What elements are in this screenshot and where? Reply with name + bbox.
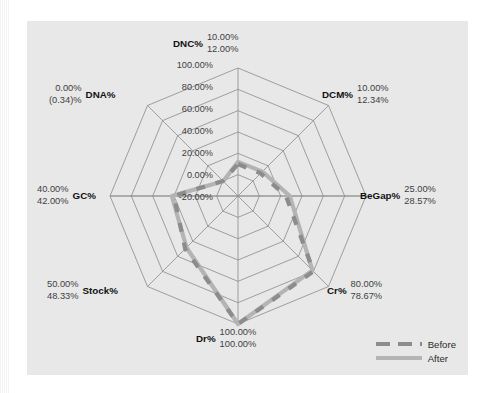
axis-name-dr: Dr% xyxy=(196,333,216,345)
axis-name-gc: GC% xyxy=(73,190,96,202)
legend-row-after: After xyxy=(376,351,456,365)
axis-value-before-stock: 50.00% xyxy=(47,279,79,291)
axis-value-after-dnc: 12.00% xyxy=(207,44,239,56)
grid-spoke xyxy=(238,196,329,287)
radar-chart-plot-area: 100.00% 80.00% 60.00% 40.00% 20.00% 0.00… xyxy=(27,21,468,375)
legend-swatch-before xyxy=(376,342,422,346)
legend-label-after: After xyxy=(428,353,448,364)
axis-name-dcm: DCM% xyxy=(322,89,353,101)
axis-label-dnc: DNC% 10.00% 12.00% xyxy=(173,32,238,55)
axis-value-before-cr: 80.00% xyxy=(351,279,383,291)
grid-spoke xyxy=(147,196,238,287)
axis-label-stock: 50.00% 48.33% Stock% xyxy=(47,279,118,302)
axis-label-cr: Cr% 80.00% 78.67% xyxy=(327,279,382,302)
axis-value-after-gc: 42.00% xyxy=(37,196,69,208)
chart-legend: Before After xyxy=(376,337,456,365)
axis-value-after-cr: 78.67% xyxy=(351,291,383,303)
tick-label-0: 0.00% xyxy=(153,170,213,180)
scan-edge-artifact xyxy=(0,0,9,393)
axis-name-dna: DNA% xyxy=(86,89,116,101)
axis-name-dnc: DNC% xyxy=(173,38,203,50)
axis-value-before-dr: 100.00% xyxy=(220,327,257,339)
axis-value-after-stock: 48.33% xyxy=(47,291,79,303)
axis-label-dr: Dr% 100.00% 100.00% xyxy=(196,327,256,350)
axis-name-begap: BeGap% xyxy=(360,190,400,202)
axis-value-after-dna: (0.34)% xyxy=(49,95,82,107)
grid-spoke xyxy=(238,105,329,196)
tick-label-60: 60.00% xyxy=(153,104,213,114)
tick-label-20: 20.00% xyxy=(153,148,213,158)
tick-label-100: 100.00% xyxy=(147,60,213,70)
axis-value-after-begap: 28.57% xyxy=(404,196,436,208)
axis-value-after-dcm: 12.34% xyxy=(357,95,389,107)
legend-swatch-after xyxy=(376,356,422,360)
tick-label-80: 80.00% xyxy=(153,82,213,92)
axis-value-before-gc: 40.00% xyxy=(37,184,69,196)
axis-value-after-dr: 100.00% xyxy=(220,339,257,351)
axis-name-stock: Stock% xyxy=(83,285,118,297)
axis-label-dna: 0.00% (0.34)% DNA% xyxy=(49,83,116,106)
axis-value-before-begap: 25.00% xyxy=(404,184,436,196)
axis-label-dcm: DCM% 10.00% 12.34% xyxy=(322,83,389,106)
axis-name-cr: Cr% xyxy=(327,285,347,297)
tick-label-minus-20: -20.00% xyxy=(147,192,213,202)
legend-row-before: Before xyxy=(376,337,456,351)
axis-label-gc: 40.00% 42.00% GC% xyxy=(37,184,96,207)
axis-value-before-dnc: 10.00% xyxy=(207,32,239,44)
series-polygon-after xyxy=(172,162,313,324)
page-canvas: 100.00% 80.00% 60.00% 40.00% 20.00% 0.00… xyxy=(0,0,493,393)
axis-value-before-dcm: 10.00% xyxy=(357,83,389,95)
legend-label-before: Before xyxy=(428,339,456,350)
axis-value-before-dna: 0.00% xyxy=(49,83,82,95)
tick-label-40: 40.00% xyxy=(153,126,213,136)
axis-label-begap: BeGap% 25.00% 28.57% xyxy=(360,184,436,207)
